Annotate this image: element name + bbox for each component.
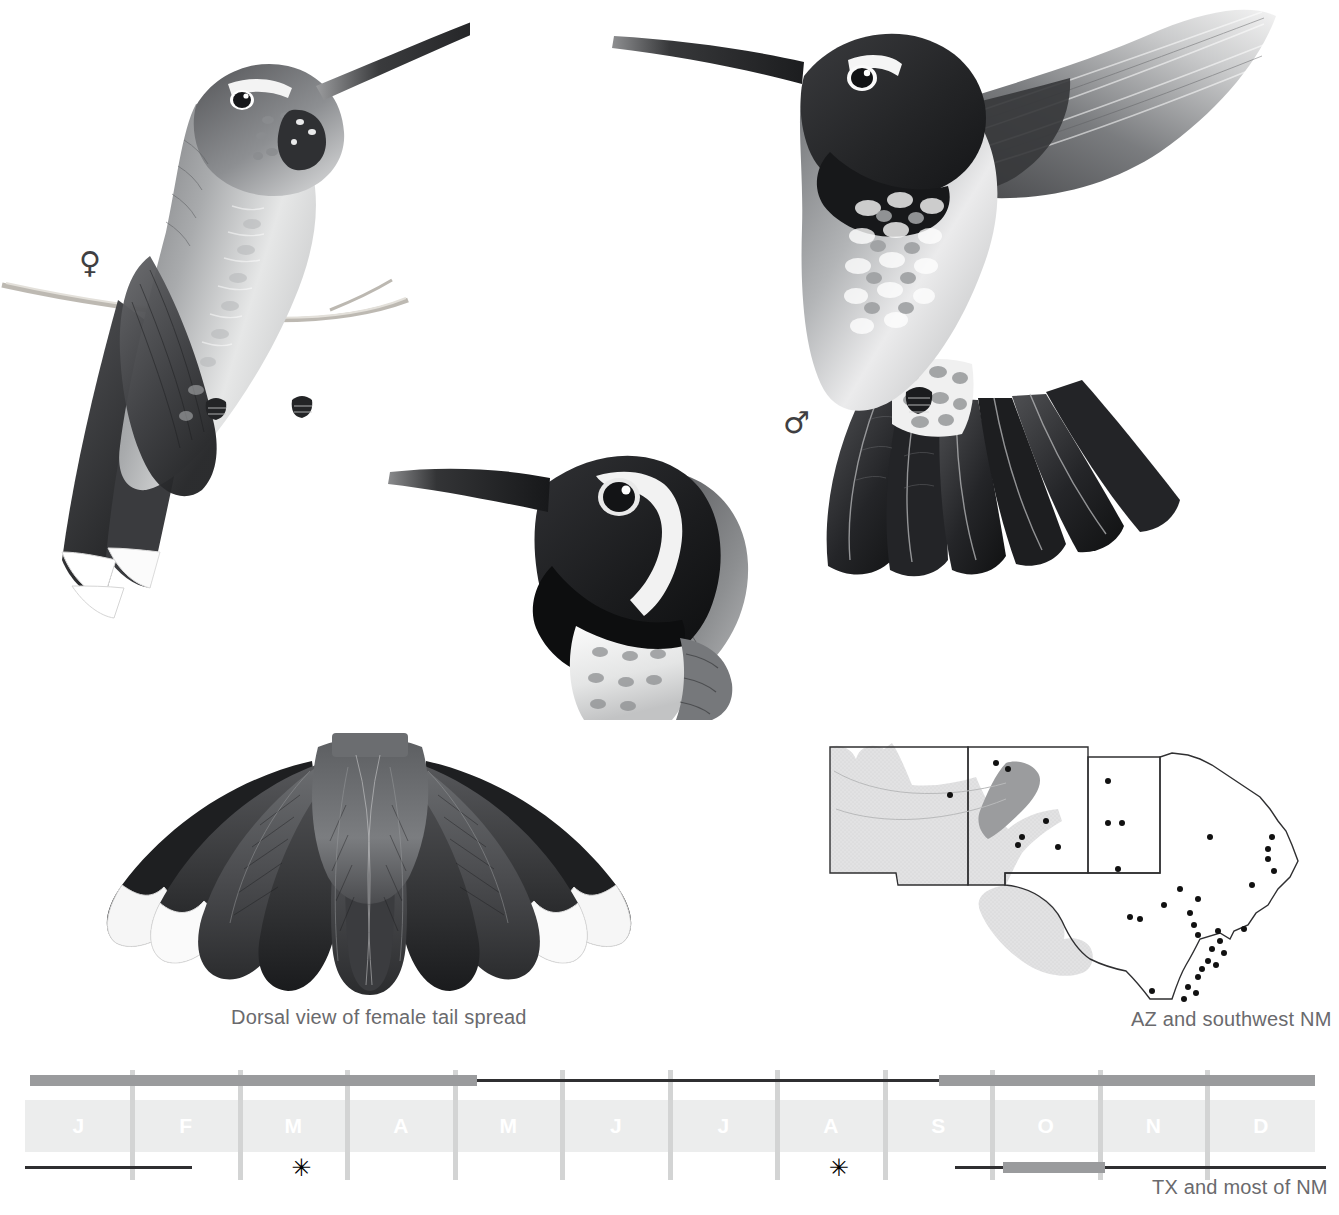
month-gridline-3 xyxy=(345,1070,350,1180)
calendar-bottom-segment-1 xyxy=(955,1166,1003,1169)
calendar-top-segment-2 xyxy=(939,1075,1315,1086)
calendar-top-segment-1 xyxy=(477,1079,939,1082)
month-label-6: J xyxy=(670,1100,778,1152)
calendar-top-segment-0 xyxy=(30,1075,476,1086)
calendar-star-1: ✳ xyxy=(829,1156,849,1180)
month-gridline-11 xyxy=(1205,1070,1210,1180)
month-label-3: A xyxy=(348,1100,456,1152)
month-label-11: D xyxy=(1208,1100,1316,1152)
month-label-2: M xyxy=(240,1100,348,1152)
month-label-9: O xyxy=(993,1100,1101,1152)
month-gridline-2 xyxy=(238,1070,243,1180)
field-guide-plate: ♀ xyxy=(0,0,1339,1215)
male-symbol: ♂ xyxy=(783,408,810,438)
calendar-bottom-segment-0 xyxy=(25,1166,192,1169)
calendar-bottom-segment-3 xyxy=(1105,1166,1325,1169)
range-map xyxy=(800,725,1310,1005)
month-label-7: A xyxy=(778,1100,886,1152)
tail-spread-caption: Dorsal view of female tail spread xyxy=(231,1006,527,1029)
month-label-8: S xyxy=(885,1100,993,1152)
month-gridline-5 xyxy=(560,1070,565,1180)
calendar-star-0: ✳ xyxy=(291,1156,311,1180)
month-label-0: J xyxy=(25,1100,133,1152)
calendar-bottom-segment-2 xyxy=(1003,1162,1105,1173)
month-gridline-1 xyxy=(130,1070,135,1180)
month-gridline-7 xyxy=(775,1070,780,1180)
month-label-1: F xyxy=(133,1100,241,1152)
female-symbol: ♀ xyxy=(79,248,101,278)
male-head-study xyxy=(380,440,780,720)
month-label-4: M xyxy=(455,1100,563,1152)
month-gridline-4 xyxy=(453,1070,458,1180)
phenology-calendar: JFMAMJJASOND✳✳ xyxy=(0,1070,1339,1180)
month-gridline-8 xyxy=(883,1070,888,1180)
month-gridline-9 xyxy=(990,1070,995,1180)
calendar-caption: TX and most of NM xyxy=(1152,1176,1328,1199)
female-tail-spread xyxy=(60,725,680,1010)
range-map-caption: AZ and southwest NM xyxy=(1131,1008,1332,1031)
month-label-5: J xyxy=(563,1100,671,1152)
month-gridline-6 xyxy=(668,1070,673,1180)
month-label-10: N xyxy=(1100,1100,1208,1152)
